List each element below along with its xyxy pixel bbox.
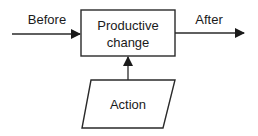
process-box-label-line2: change: [107, 35, 150, 50]
process-box-label-line1: Productive: [97, 18, 158, 33]
action-label: Action: [110, 97, 146, 112]
input-label: Before: [28, 12, 66, 27]
diagram-canvas: Before Productive change After Action: [0, 0, 258, 136]
output-label: After: [195, 12, 223, 27]
